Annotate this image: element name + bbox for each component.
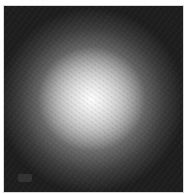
corner-artifact (18, 174, 32, 182)
texture-overlay (4, 6, 183, 192)
glow-image (4, 6, 183, 192)
caption-fragment: · · · (30, 0, 60, 3)
